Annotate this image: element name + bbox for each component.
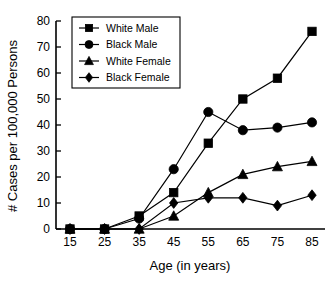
marker-circle [135, 214, 144, 223]
y-tick-label: 30 [37, 144, 51, 158]
chart-legend: White MaleBlack MaleWhite FemaleBlack Fe… [72, 17, 180, 88]
marker-square [170, 188, 178, 196]
x-tick-label: 55 [202, 235, 216, 249]
series-line [70, 195, 312, 229]
marker-circle [169, 165, 178, 174]
y-tick-label: 60 [37, 66, 51, 80]
y-tick-label: 70 [37, 40, 51, 54]
series-line [70, 161, 312, 229]
marker-diamond [239, 192, 247, 203]
x-tick-label: 15 [63, 235, 77, 249]
marker-circle [85, 41, 93, 49]
x-axis-title: Age (in years) [150, 258, 231, 273]
y-tick-label: 10 [37, 196, 51, 210]
x-tick-label: 45 [167, 235, 181, 249]
marker-square [308, 27, 316, 35]
marker-diamond [308, 190, 316, 201]
y-tick-label: 80 [37, 14, 51, 28]
legend-label: Black Female [106, 71, 170, 83]
series-black-female [66, 190, 316, 235]
x-tick-label: 85 [305, 235, 319, 249]
marker-diamond [170, 198, 178, 209]
legend-label: White Male [106, 22, 159, 34]
marker-square [273, 74, 281, 82]
x-tick-label: 65 [236, 235, 250, 249]
marker-circle [307, 118, 316, 127]
marker-square [239, 95, 247, 103]
line-chart: 01020304050607080 1525354555657585 # Cas… [0, 0, 334, 281]
marker-triangle [307, 156, 317, 165]
legend-label: Black Male [106, 38, 158, 50]
y-axis-title: # Cases per 100,000 Persons [5, 40, 20, 212]
y-tick-label: 20 [37, 170, 51, 184]
marker-circle [204, 107, 213, 116]
legend-label: White Female [106, 55, 171, 67]
marker-square [204, 139, 212, 147]
marker-triangle [169, 211, 179, 220]
chart-container: 01020304050607080 1525354555657585 # Cas… [0, 0, 334, 281]
x-tick-label: 35 [132, 235, 146, 249]
y-axis: 01020304050607080 [37, 14, 61, 236]
marker-diamond [273, 200, 281, 211]
y-tick-label: 40 [37, 118, 51, 132]
marker-square [85, 24, 92, 31]
x-tick-label: 75 [271, 235, 285, 249]
x-axis: 1525354555657585 [56, 229, 325, 249]
x-tick-label: 25 [98, 235, 112, 249]
marker-circle [273, 123, 282, 132]
y-tick-label: 0 [43, 222, 50, 236]
marker-circle [238, 126, 247, 135]
y-tick-label: 50 [37, 92, 51, 106]
